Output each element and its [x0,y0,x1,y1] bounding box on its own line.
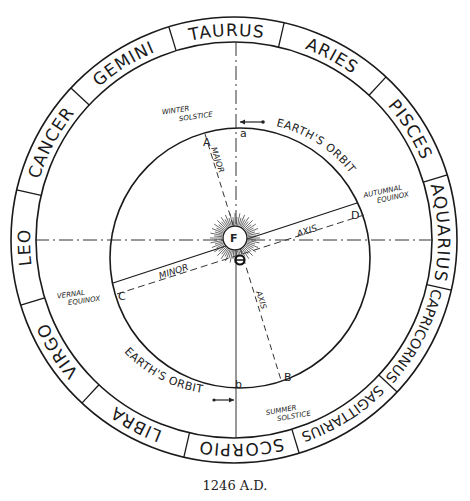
earths-orbit-label-top: EARTH'S ORBIT [275,116,358,175]
focus-label: F [230,232,238,245]
point-b-label: b [235,378,242,391]
zodiac-divider [71,88,89,105]
zodiac-sign-cancer: CANCER [24,103,78,181]
major-label: MAJOR [209,146,226,174]
point-A-label: A [203,136,211,149]
axis-label-1: AXIS [295,223,319,239]
zodiac-divider [292,429,299,453]
point-D-label: D [351,209,359,222]
point-B-label: B [284,371,292,384]
minor-label: MINOR [158,262,190,281]
orbit-direction-arrow-bottom [212,398,234,403]
earth-symbol-icon [236,256,245,265]
zodiac-divider [21,298,45,305]
orbit-direction-arrow-top [240,120,265,125]
diagram-caption: 1246 A.D. [0,478,470,493]
earths-orbit-label-bottom: EARTH'S ORBIT [122,345,205,396]
point-a-label: a [240,127,247,140]
zodiac-sign-pisces: PISCES [384,95,436,162]
zodiac-sign-leo: LEO [14,228,36,267]
zodiac-divider [169,27,176,51]
point-C-label: C [118,290,126,303]
zodiac-divider [279,23,285,47]
zodiac-sign-aquarius: AQUARIUS [427,181,454,284]
zodiac-divider [369,77,386,95]
zodiac-orbit-diagram: TAURUSARIESPISCESAQUARIUSCAPRICORNUSSAGI… [0,0,470,501]
zodiac-divider [82,385,99,403]
zodiac-sign-taurus: TAURUS [186,20,266,45]
zodiac-divider [423,175,447,182]
zodiac-divider [17,190,41,196]
zodiac-divider [184,433,190,457]
